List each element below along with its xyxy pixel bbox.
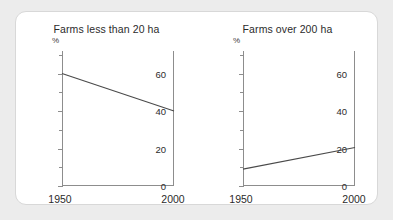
x-tick-label-start: 1950: [48, 193, 71, 205]
chart-farms-less-than-20-ha: Farms less than 20 ha % 0204060 1950 200…: [16, 12, 197, 206]
data-series-line: [62, 51, 174, 186]
x-tick-label-end: 2000: [161, 193, 184, 205]
y-tick-major: [239, 186, 244, 187]
chart-title: Farms less than 20 ha: [16, 23, 197, 35]
plot-area: % 0204060 1950 2000: [62, 51, 174, 186]
x-tick-label-end: 2000: [342, 193, 365, 205]
data-series-line: [243, 51, 355, 186]
plot-area: % 0204060 1950 2000: [243, 51, 355, 186]
figure-panel: Farms less than 20 ha % 0204060 1950 200…: [15, 11, 378, 205]
y-axis-unit-label: %: [233, 36, 240, 45]
y-tick-major: [58, 186, 63, 187]
y-axis-unit-label: %: [52, 36, 59, 45]
chart-title: Farms over 200 ha: [197, 23, 378, 35]
chart-farms-over-200-ha: Farms over 200 ha % 0204060 1950 2000: [197, 12, 378, 206]
x-tick-label-start: 1950: [229, 193, 252, 205]
